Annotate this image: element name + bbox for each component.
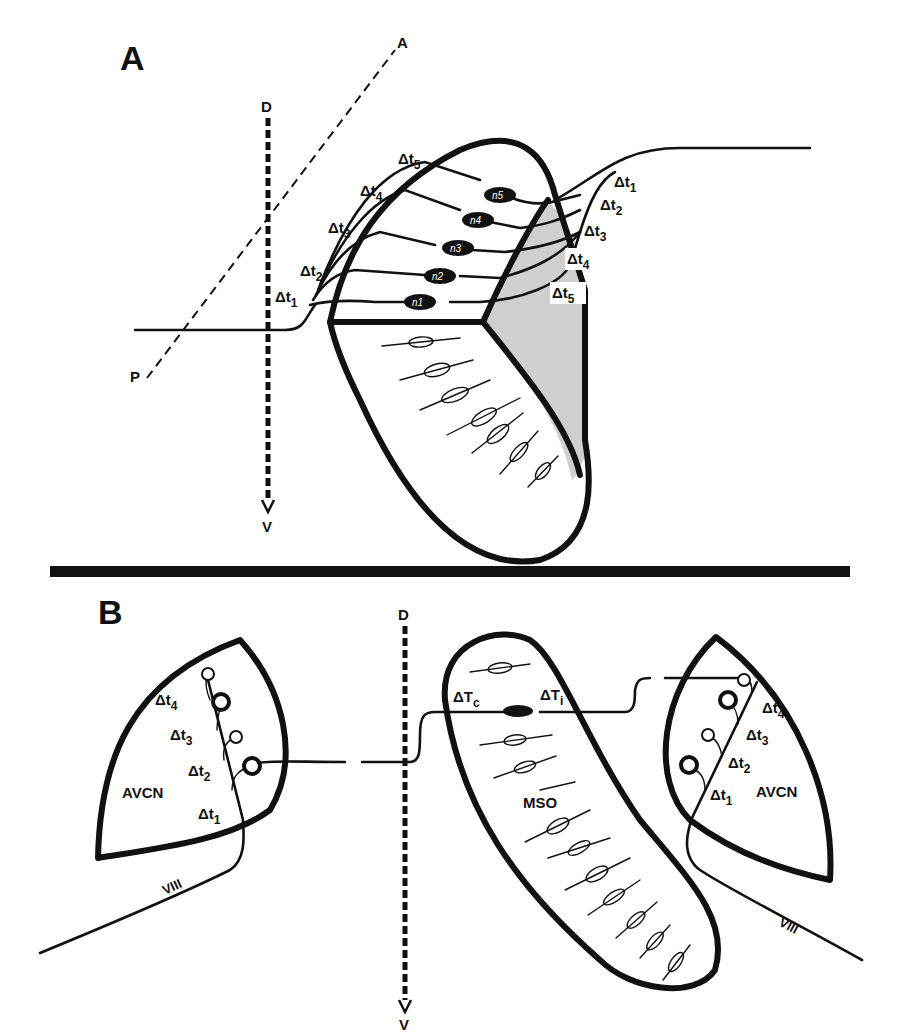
axis-label-anterior: A	[397, 34, 408, 51]
right-avcn: AVCN VIII Δt1 Δt2 Δt3 Δt4	[666, 637, 862, 960]
axis-label-ventral-b: V	[399, 1016, 409, 1033]
right-delay-1: Δt1	[710, 786, 733, 808]
contralateral-delay-label: ΔTc	[453, 688, 480, 710]
svg-text:n3: n3	[450, 243, 462, 254]
delay-label-left-2: Δt2	[300, 262, 323, 284]
svg-text:n1: n1	[412, 297, 423, 308]
left-delay-2: Δt2	[188, 762, 211, 784]
left-delay-4: Δt4	[155, 691, 178, 713]
left-delay-3: Δt3	[170, 726, 193, 748]
right-delay-3: Δt3	[746, 726, 769, 748]
axis-label-ventral-a: V	[262, 518, 272, 535]
left-avcn-outline	[98, 640, 286, 858]
delay-label-right-1: Δt1	[614, 173, 637, 195]
left-output-fiber	[258, 761, 345, 763]
arrow-down-icon	[262, 500, 274, 512]
panel-a-label: A	[120, 39, 145, 77]
right-avcn-label: AVCN	[756, 783, 797, 800]
contralateral-fiber	[362, 712, 505, 762]
axis-label-dorsal-b: D	[398, 606, 409, 623]
ipsilateral-delay-label: ΔTi	[540, 686, 563, 708]
fiber-dt2	[313, 270, 425, 300]
left-avcn-label: AVCN	[122, 784, 163, 801]
delay-label-right-3: Δt3	[584, 222, 607, 244]
mso-coincidence-neuron	[503, 705, 533, 717]
left-endbulbs	[202, 668, 260, 774]
neuron-n5: n5	[484, 187, 516, 203]
input-fiber-right	[555, 148, 810, 200]
delay-label-left-3: Δt3	[328, 219, 351, 241]
delay-label-right-2: Δt2	[600, 196, 623, 218]
arrow-down-icon	[399, 1000, 411, 1012]
axis-label-dorsal-a: D	[261, 98, 272, 115]
neuron-n4: n4	[462, 212, 494, 228]
svg-text:n4: n4	[470, 215, 482, 226]
panel-a: A A P D V	[120, 34, 810, 561]
panel-b-label: B	[98, 593, 123, 631]
panel-b: B D V AVCN VIII Δt1 Δt2	[40, 593, 862, 1033]
delay-label-left-1: Δt1	[275, 288, 298, 310]
right-nerve-label: VIII	[777, 914, 801, 936]
axis-label-posterior: P	[130, 368, 140, 385]
fiber-dt1	[310, 301, 415, 305]
input-fiber-left	[135, 305, 315, 330]
left-delay-1: Δt1	[198, 805, 221, 827]
svg-text:n5: n5	[492, 190, 504, 201]
figure-diagram: A A P D V	[0, 0, 898, 1035]
fiber-dt3	[316, 232, 435, 295]
panel-separator	[50, 566, 850, 577]
left-avcn: AVCN VIII Δt1 Δt2 Δt3 Δt4	[40, 640, 345, 953]
svg-text:n2: n2	[432, 271, 444, 282]
right-delay-2: Δt2	[728, 754, 751, 776]
mso-bipolar-cells	[470, 661, 690, 980]
neuron-n1: n1	[404, 294, 436, 310]
neuron-n3: n3	[442, 240, 474, 256]
mso-label: MSO	[523, 794, 558, 811]
neuron-n2: n2	[424, 268, 456, 284]
